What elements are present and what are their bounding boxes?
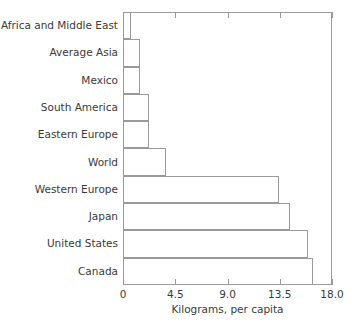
x-tick-bottom <box>280 279 281 285</box>
bar-chart: Africa and Middle EastAverage AsiaMexico… <box>0 0 357 326</box>
x-tick-label: 13.5 <box>268 288 291 300</box>
x-tick-top <box>123 12 124 18</box>
x-tick-bottom <box>332 279 333 285</box>
y-axis-label: South America <box>41 94 118 121</box>
x-tick-bottom <box>175 279 176 285</box>
bar-row <box>123 121 332 148</box>
bar <box>123 39 140 66</box>
bar <box>123 121 149 148</box>
x-tick-bottom <box>123 279 124 285</box>
bar-row <box>123 39 332 66</box>
y-axis-label: Africa and Middle East <box>1 12 118 39</box>
x-tick-label: 18.0 <box>320 288 343 300</box>
x-tick-top <box>280 12 281 18</box>
bar-row <box>123 230 332 257</box>
x-tick-bottom <box>228 279 229 285</box>
y-axis-label: Average Asia <box>50 39 118 66</box>
bar <box>123 230 308 257</box>
x-tick-top <box>228 12 229 18</box>
bar <box>123 176 279 203</box>
bars-layer <box>123 12 332 285</box>
y-axis-category-labels: Africa and Middle EastAverage AsiaMexico… <box>0 12 118 285</box>
x-tick-label: 0 <box>120 288 127 300</box>
x-axis-title: Kilograms, per capita <box>123 303 332 315</box>
y-axis-label: Mexico <box>81 67 118 94</box>
x-tick-label: 9.0 <box>219 288 236 300</box>
y-axis-label: Western Europe <box>35 176 118 203</box>
y-axis-label: Canada <box>78 258 118 285</box>
bar <box>123 67 140 94</box>
bar <box>123 203 290 230</box>
y-axis-label: United States <box>47 230 118 257</box>
y-axis-label: Eastern Europe <box>38 121 118 148</box>
bar-row <box>123 176 332 203</box>
bar-row <box>123 203 332 230</box>
bar <box>123 258 313 285</box>
y-axis-label: Japan <box>89 203 118 230</box>
bar <box>123 12 131 39</box>
bar <box>123 148 166 175</box>
x-tick-label: 4.5 <box>167 288 184 300</box>
bar-row <box>123 148 332 175</box>
x-tick-top <box>332 12 333 18</box>
y-axis-label: World <box>88 149 118 176</box>
bar <box>123 94 149 121</box>
bar-row <box>123 94 332 121</box>
bar-row <box>123 67 332 94</box>
x-tick-top <box>175 12 176 18</box>
